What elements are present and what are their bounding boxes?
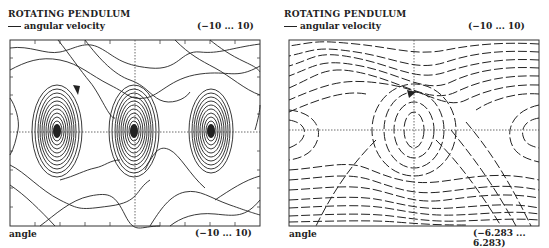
left-panel: ROTATING PENDULUM angular velocity (−10 … — [0, 0, 274, 244]
left-direction-arrow-icon — [73, 85, 80, 95]
left-phase-portrait — [0, 0, 274, 244]
left-orbits — [32, 85, 233, 177]
right-direction-field — [276, 0, 549, 244]
right-panel: ROTATING PENDULUM angular velocity (−10 … — [276, 0, 549, 244]
